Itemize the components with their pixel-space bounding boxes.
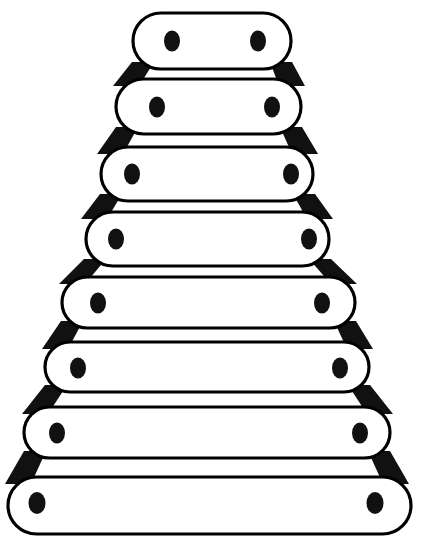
rung-7-peg-left bbox=[49, 423, 65, 444]
rung-7-peg-right bbox=[352, 423, 368, 444]
rung-3-peg-left bbox=[124, 164, 140, 185]
stacked-bars-diagram: Stacked rounded bars forming a tapered t… bbox=[0, 0, 421, 556]
rung-6-peg-right bbox=[332, 358, 348, 379]
rung-1-peg-right bbox=[250, 31, 266, 52]
rung-3-peg-right bbox=[283, 164, 299, 185]
rung-1-peg-left bbox=[164, 31, 180, 52]
rung-5-peg-left bbox=[90, 293, 106, 314]
rung-8-peg-left bbox=[29, 492, 46, 514]
rung-5-peg-right bbox=[314, 293, 330, 314]
rung-4-peg-left bbox=[108, 229, 124, 250]
rung-1 bbox=[133, 13, 291, 69]
rung-2-peg-right bbox=[264, 97, 280, 118]
rung-8 bbox=[8, 477, 411, 534]
rung-7 bbox=[24, 407, 390, 458]
rung-8-peg-right bbox=[367, 492, 384, 514]
rung-4-peg-right bbox=[301, 229, 317, 250]
rung-6 bbox=[45, 342, 369, 392]
rung-2-peg-left bbox=[149, 97, 165, 118]
rung-6-peg-left bbox=[70, 358, 86, 379]
